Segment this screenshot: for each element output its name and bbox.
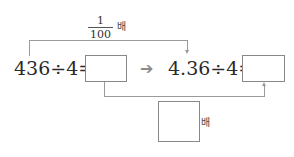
bottom-factor-unit: 배 (201, 114, 210, 129)
fraction-denominator: 100 (88, 29, 113, 40)
arrow-up-icon (262, 82, 266, 86)
top-fraction: 1 100 (88, 15, 113, 40)
right-answer-box[interactable] (242, 55, 285, 82)
arrow-right-icon: ➔ (140, 59, 153, 78)
fraction-numerator: 1 (88, 15, 113, 26)
bottom-bracket-left-line (104, 82, 105, 97)
top-factor-unit: 배 (117, 18, 126, 33)
factor-answer-box[interactable] (158, 101, 200, 142)
bottom-bracket-horizontal-line (104, 96, 265, 97)
top-bracket-left-line (29, 40, 30, 56)
bottom-bracket-right-line (264, 86, 265, 97)
left-equation: 436÷4= (14, 59, 94, 78)
arrow-down-icon (185, 50, 189, 54)
left-answer-box[interactable] (85, 55, 127, 82)
